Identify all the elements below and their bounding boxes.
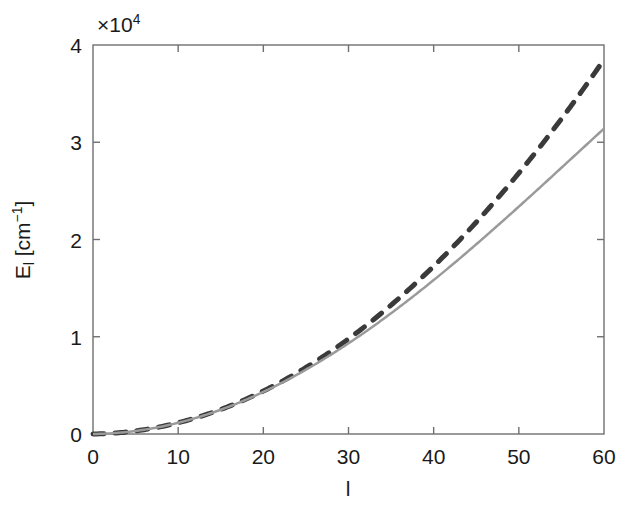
- y-axis-title: El [cm−1]: [12, 201, 33, 280]
- y-axis-title-subscript: l: [21, 262, 37, 265]
- plot-canvas: [0, 0, 644, 519]
- plot-frame: [93, 45, 604, 434]
- series-line-non-rigid-rotor: [93, 129, 604, 434]
- y-tick-label: 0: [70, 424, 82, 445]
- series-line-rigid-rotor: [93, 60, 604, 434]
- x-axis-title: l: [346, 478, 351, 499]
- chart-figure: ×104 El [cm−1] l 0102030405060 01234: [0, 0, 644, 519]
- x-tick-label: 40: [422, 446, 445, 467]
- y-exponent-base: ×10: [97, 13, 133, 36]
- x-tick-label: 30: [337, 446, 360, 467]
- data-series-group: [93, 60, 604, 434]
- y-axis-title-base: E: [11, 265, 34, 279]
- tick-marks: [93, 45, 604, 434]
- x-tick-label: 50: [507, 446, 530, 467]
- x-tick-label: 0: [87, 446, 99, 467]
- y-tick-label: 3: [70, 132, 82, 153]
- y-tick-label: 2: [70, 229, 82, 250]
- y-exponent-power: 4: [133, 11, 141, 27]
- y-tick-label: 1: [70, 326, 82, 347]
- y-tick-label: 4: [70, 35, 82, 56]
- x-tick-label: 20: [252, 446, 275, 467]
- y-axis-title-unit-open: [cm: [11, 222, 34, 262]
- x-tick-label: 10: [166, 446, 189, 467]
- y-axis-exponent-label: ×104: [97, 14, 140, 35]
- y-axis-title-unit-close: ]: [11, 201, 34, 207]
- y-axis-title-unit-exponent: −1: [9, 207, 25, 223]
- x-tick-label: 60: [592, 446, 615, 467]
